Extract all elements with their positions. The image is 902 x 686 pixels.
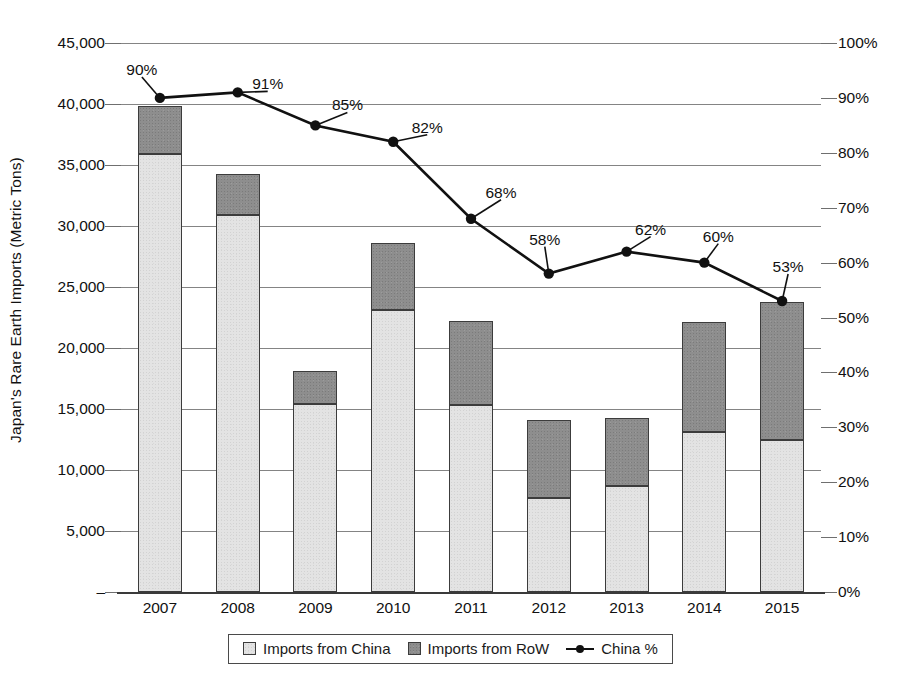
y-axis-tick-label: 20,000 (13, 339, 105, 357)
y2-axis-tick-label: 20% (838, 473, 902, 491)
y2-axis-tick (821, 372, 837, 373)
y-axis-tick-label: 25,000 (13, 278, 105, 296)
y2-axis-tick (821, 537, 837, 538)
legend-line-marker-icon (566, 642, 594, 655)
legend-label-row: Imports from RoW (428, 640, 550, 657)
y-axis-tick-label: 30,000 (13, 217, 105, 235)
legend-label-china-percent: China % (601, 640, 658, 657)
y-axis-tick (105, 531, 121, 532)
x-axis-tick-label-2008: 2008 (193, 599, 283, 617)
y2-axis-tick (821, 208, 837, 209)
line-data-label-2007: 90% (126, 61, 157, 79)
y-axis-tick-label: 10,000 (13, 461, 105, 479)
y-axis-tick (105, 104, 121, 105)
line-data-label-2013: 62% (635, 221, 666, 239)
y-axis-tick-label: 45,000 (13, 34, 105, 52)
x-axis-tick-label-2013: 2013 (582, 599, 672, 617)
y2-axis-tick-label: 10% (838, 528, 902, 546)
y2-axis-tick (821, 263, 837, 264)
x-axis-tick-label-2014: 2014 (659, 599, 749, 617)
y-axis-tick (105, 165, 121, 166)
y-axis-right: 0%10%20%30%40%50%60%70%80%90%100% (838, 43, 902, 592)
rare-earth-imports-chart: Japan's Rare Earth Imports (Metric Tons)… (0, 0, 902, 686)
line-data-label-2015: 53% (773, 258, 804, 276)
legend-item-imports-from-row: Imports from RoW (408, 640, 550, 657)
line-data-label-2011: 68% (485, 184, 516, 202)
y2-axis-tick (821, 318, 837, 319)
legend-swatch-row-icon (408, 642, 421, 655)
y2-axis-tick (821, 482, 837, 483)
line-data-label-2010: 82% (412, 119, 443, 137)
y2-axis-tick (821, 98, 837, 99)
y-axis-tick (105, 470, 121, 471)
y-axis-tick-label: 15,000 (13, 400, 105, 418)
line-data-label-2012: 58% (529, 231, 560, 249)
y-axis-tick-label: 35,000 (13, 156, 105, 174)
x-axis-tick-label-2009: 2009 (270, 599, 360, 617)
y2-axis-tick-label: 30% (838, 418, 902, 436)
y-axis-left: –5,00010,00015,00020,00025,00030,00035,0… (13, 43, 105, 592)
y2-axis-tick-label: 60% (838, 254, 902, 272)
x-axis-tick-label-2011: 2011 (426, 599, 516, 617)
legend-item-china-percent: China % (566, 640, 658, 657)
y2-axis-tick (821, 153, 837, 154)
legend-item-imports-from-china: Imports from China (243, 640, 391, 657)
y-axis-tick-label: 40,000 (13, 95, 105, 113)
y2-axis-tick-label: 70% (838, 199, 902, 217)
x-axis: 200720082009201020112012201320142015 (121, 43, 821, 643)
y-axis-tick (105, 409, 121, 410)
chart-legend: Imports from China Imports from RoW Chin… (228, 634, 673, 664)
y-axis-tick-label: – (13, 583, 105, 601)
legend-label-china: Imports from China (263, 640, 391, 657)
y-axis-tick (105, 226, 121, 227)
y-axis-tick (105, 43, 121, 44)
y2-axis-tick (821, 427, 837, 428)
y2-axis-tick-label: 50% (838, 309, 902, 327)
x-axis-tick-label-2015: 2015 (737, 599, 827, 617)
line-data-label-2009: 85% (332, 96, 363, 114)
line-data-label-2008: 91% (252, 75, 283, 93)
legend-swatch-china-icon (243, 642, 256, 655)
x-axis-tick-label-2007: 2007 (115, 599, 205, 617)
y2-axis-tick-label: 90% (838, 89, 902, 107)
y2-axis-tick-label: 40% (838, 363, 902, 381)
y2-axis-tick-label: 0% (838, 583, 902, 601)
y2-axis-tick-label: 80% (838, 144, 902, 162)
line-data-label-2014: 60% (703, 228, 734, 246)
y-axis-tick-label: 5,000 (13, 522, 105, 540)
y2-axis-tick (821, 43, 837, 44)
y-axis-tick (105, 348, 121, 349)
x-axis-tick-label-2012: 2012 (504, 599, 594, 617)
y-axis-tick (105, 287, 121, 288)
y2-axis-tick-label: 100% (838, 34, 902, 52)
x-axis-tick-label-2010: 2010 (348, 599, 438, 617)
